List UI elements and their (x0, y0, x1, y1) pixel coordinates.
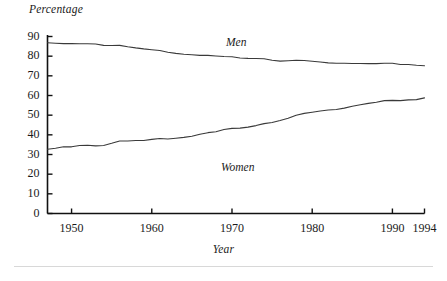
y-axis-title: Percentage (29, 3, 83, 15)
y-tick-label: 60 (14, 88, 40, 103)
y-tick-label: 90 (14, 29, 40, 44)
y-tick-label: 0 (14, 206, 40, 221)
y-tick-label: 70 (14, 68, 40, 83)
series-label-men: Men (226, 36, 246, 48)
x-tick-label: 1960 (132, 221, 172, 236)
x-tick-label: 1994 (405, 221, 445, 236)
axis-lines (48, 35, 425, 214)
y-tick-label: 10 (14, 186, 40, 201)
x-axis-title: Year (0, 243, 447, 255)
series-line-women (48, 98, 425, 149)
y-tick-label: 30 (14, 147, 40, 162)
x-tick-label: 1980 (292, 221, 332, 236)
y-tick-label: 80 (14, 48, 40, 63)
y-tick-label: 50 (14, 107, 40, 122)
x-tick-label: 1970 (212, 221, 252, 236)
y-tick-label: 40 (14, 127, 40, 142)
x-tick-label: 1950 (52, 221, 92, 236)
series-label-women: Women (221, 161, 254, 173)
plot-area (0, 0, 447, 281)
line-chart-figure: Percentage Men Women Year 01020304050607… (0, 0, 447, 281)
bottom-divider (14, 266, 433, 267)
y-tick-label: 20 (14, 166, 40, 181)
